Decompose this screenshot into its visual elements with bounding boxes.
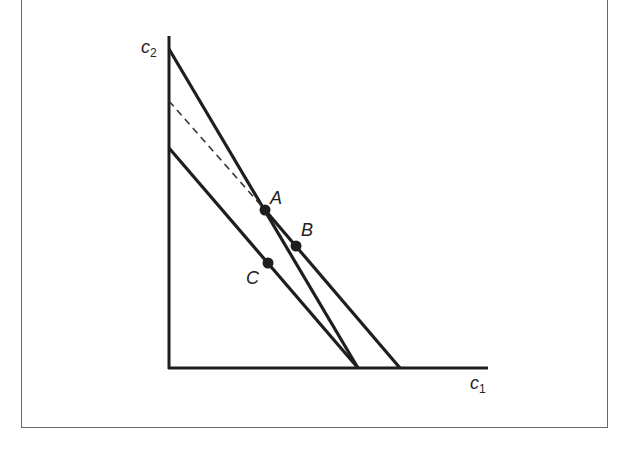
diagram-canvas: A B C c2 c1 [0,0,629,452]
outer-budget-line-dashed [169,101,265,210]
point-b-label: B [301,220,313,240]
point-a-label: A [269,188,282,208]
point-c-label: C [246,268,260,288]
y-axis-label-sub: 2 [150,46,157,60]
point-a [260,205,271,216]
x-axis-label: c1 [470,373,486,396]
inner-budget-line [169,148,358,368]
x-axis-label-sub: 1 [479,382,486,396]
x-axis-label-main: c [470,373,479,393]
y-axis-label: c2 [141,37,157,60]
y-axis-label-main: c [141,37,150,57]
point-b [291,241,302,252]
point-c [263,258,274,269]
outer-budget-line [265,210,400,368]
